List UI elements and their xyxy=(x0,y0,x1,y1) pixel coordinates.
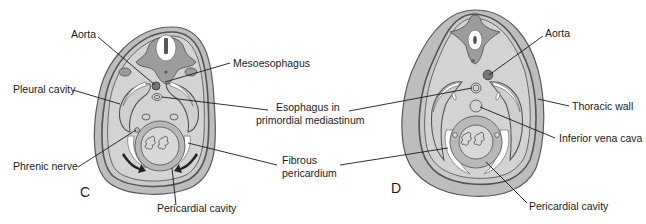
label-mesoesophagus: Mesoesophagus xyxy=(233,57,310,69)
panel-c-heart xyxy=(141,127,179,165)
panel-d-inferior-vena-cava xyxy=(470,100,482,112)
label-esophagus-line1: Esophagus in xyxy=(276,101,340,113)
panel-d-aorta xyxy=(483,70,493,80)
panel-letter-c: C xyxy=(80,184,90,200)
embryo-thorax-diagram: Aorta Mesoesophagus Pleural cavity Esoph… xyxy=(0,0,646,224)
label-inferior-vena-cava: Inferior vena cava xyxy=(559,132,643,144)
label-pericardial-cavity-d: Pericardial cavity xyxy=(529,200,609,212)
label-fibrous-line1: Fibrous xyxy=(282,154,317,166)
panel-d-cross-section xyxy=(402,10,544,196)
label-esophagus-line2: primordial mediastinum xyxy=(256,114,365,126)
label-aorta-d: Aorta xyxy=(545,27,570,39)
label-thoracic-wall: Thoracic wall xyxy=(572,100,633,112)
panel-c-cross-section xyxy=(94,27,215,194)
label-aorta-c: Aorta xyxy=(71,28,96,40)
panel-d-heart xyxy=(459,125,493,159)
panel-d-esophagus xyxy=(471,83,481,93)
label-pleural-cavity: Pleural cavity xyxy=(13,83,76,95)
panel-c-esophagus xyxy=(152,94,162,101)
label-phrenic-nerve: Phrenic nerve xyxy=(13,160,78,172)
label-fibrous-line2: pericardium xyxy=(282,167,337,179)
label-pericardial-cavity-c: Pericardial cavity xyxy=(157,202,237,214)
panel-letter-d: D xyxy=(391,180,401,196)
